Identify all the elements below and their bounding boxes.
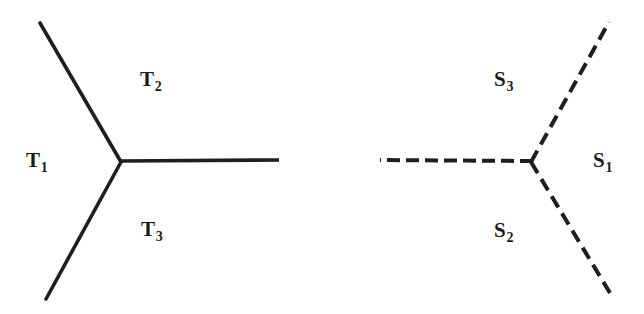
solid-horizontal-edge xyxy=(119,160,279,161)
label-t1-base: T xyxy=(26,148,40,172)
tripod-diagram-svg xyxy=(0,0,644,314)
figure-canvas: T1 T2 T3 S1 S2 S3 xyxy=(0,0,644,314)
label-s1-base: S xyxy=(593,148,605,172)
label-t1-subscript: 1 xyxy=(41,160,48,175)
label-s2: S2 xyxy=(494,220,513,241)
solid-tripod-group xyxy=(40,23,279,299)
dashed-lower-right-edge xyxy=(531,162,613,298)
label-s1-subscript: 1 xyxy=(605,160,612,175)
label-s2-subscript: 2 xyxy=(506,230,513,245)
label-t3-subscript: 3 xyxy=(156,229,163,244)
label-t2: T2 xyxy=(140,69,161,90)
dashed-horizontal-edge xyxy=(380,160,533,161)
solid-lower-left-edge xyxy=(46,162,121,299)
dashed-upper-right-edge xyxy=(531,22,609,162)
label-s3-subscript: 3 xyxy=(506,79,513,94)
label-t2-base: T xyxy=(140,67,154,91)
label-t3: T3 xyxy=(141,219,162,240)
label-s3-base: S xyxy=(494,67,506,91)
label-t3-base: T xyxy=(141,217,155,241)
label-s2-base: S xyxy=(494,218,506,242)
label-t1: T1 xyxy=(26,150,47,171)
dashed-tripod-group xyxy=(380,22,613,298)
label-s3: S3 xyxy=(494,69,513,90)
label-t2-subscript: 2 xyxy=(155,79,162,94)
label-s1: S1 xyxy=(593,150,612,171)
solid-upper-left-edge xyxy=(40,23,121,162)
